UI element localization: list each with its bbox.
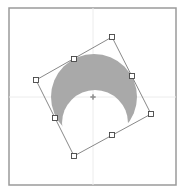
handle-top-left-edge[interactable] [72, 57, 77, 62]
handle-bottom-right-edge[interactable] [110, 133, 115, 138]
handle-bottom-left-edge[interactable] [53, 116, 58, 121]
handle-top[interactable] [110, 35, 115, 40]
handle-bottom[interactable] [72, 154, 77, 159]
handle-right[interactable] [149, 112, 154, 117]
handle-top-right-edge[interactable] [130, 74, 135, 79]
handle-left[interactable] [34, 78, 39, 83]
drawing-canvas[interactable] [0, 0, 186, 193]
